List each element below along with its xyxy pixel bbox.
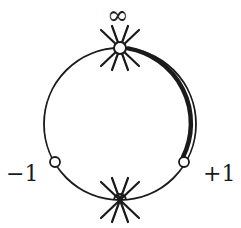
circle	[44, 48, 196, 200]
open-point-infinity-icon	[114, 42, 126, 54]
cross-marker-bottom-icon	[101, 178, 139, 222]
open-point-minus-one-icon	[50, 157, 60, 167]
diagram-canvas	[0, 0, 241, 228]
label-minus-one: −1	[6, 163, 38, 185]
label-plus-one: +1	[203, 163, 235, 185]
label-infinity: ∞	[107, 2, 129, 28]
open-point-plus-one-icon	[179, 157, 189, 167]
